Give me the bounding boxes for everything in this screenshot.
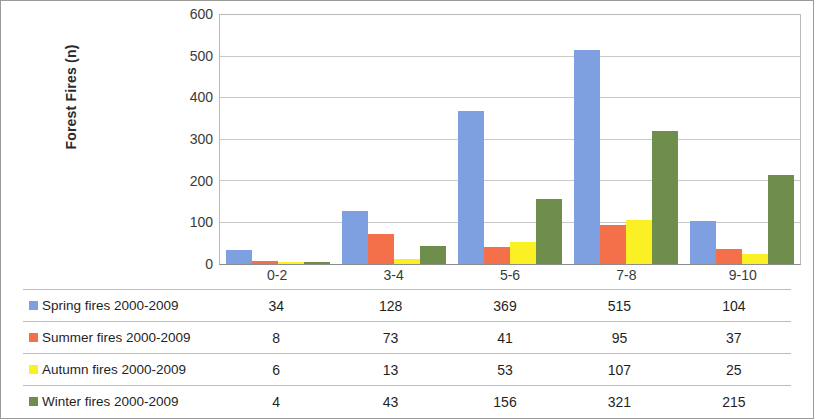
y-axis-tick-labels: 6005004003002001000 bbox=[151, 7, 213, 269]
y-tick-label: 300 bbox=[151, 131, 213, 147]
table-cell-value: 128 bbox=[333, 298, 447, 314]
table-cell-value: 156 bbox=[448, 394, 562, 410]
bar bbox=[626, 220, 652, 264]
legend-cell: Winter fires 2000-2009 bbox=[23, 394, 219, 409]
y-tick-label: 200 bbox=[151, 173, 213, 189]
table-cell-value: 25 bbox=[677, 362, 791, 378]
bar-group bbox=[220, 15, 336, 264]
chart-page: Forest Fires (n) 6005004003002001000 0-2… bbox=[0, 0, 814, 419]
legend-swatch-icon bbox=[29, 301, 38, 310]
y-axis-title: Forest Fires (n) bbox=[63, 0, 79, 207]
bar bbox=[652, 131, 678, 264]
bar bbox=[304, 262, 330, 264]
legend-label: Autumn fires 2000-2009 bbox=[42, 362, 186, 377]
table-cell-value: 53 bbox=[448, 362, 562, 378]
table-row: Spring fires 2000-200934128369515104 bbox=[23, 290, 791, 322]
bar bbox=[368, 234, 394, 264]
table-row: Summer fires 2000-2009873419537 bbox=[23, 322, 791, 354]
legend-cell: Summer fires 2000-2009 bbox=[23, 330, 219, 345]
bar-group bbox=[684, 15, 800, 264]
y-tick-label: 500 bbox=[151, 48, 213, 64]
x-tick-label: 5-6 bbox=[452, 267, 568, 283]
bar bbox=[278, 262, 304, 264]
bar bbox=[768, 175, 794, 264]
x-tick-label: 3-4 bbox=[335, 267, 451, 283]
x-tick-label: 0-2 bbox=[219, 267, 335, 283]
bar-group bbox=[336, 15, 452, 264]
bar bbox=[574, 50, 600, 264]
x-tick-label: 9-10 bbox=[685, 267, 801, 283]
bar bbox=[742, 254, 768, 264]
y-tick-label: 100 bbox=[151, 214, 213, 230]
table-cell-value: 41 bbox=[448, 330, 562, 346]
table-cell-value: 8 bbox=[219, 330, 333, 346]
table-cell-value: 73 bbox=[333, 330, 447, 346]
bar bbox=[690, 221, 716, 264]
table-cell-value: 34 bbox=[219, 298, 333, 314]
legend-swatch-icon bbox=[29, 333, 38, 342]
table-cell-value: 215 bbox=[677, 394, 791, 410]
y-tick-label: 0 bbox=[151, 256, 213, 272]
legend-cell: Spring fires 2000-2009 bbox=[23, 298, 219, 313]
table-cell-value: 4 bbox=[219, 394, 333, 410]
bar bbox=[226, 250, 252, 264]
x-tick-label: 7-8 bbox=[568, 267, 684, 283]
table-row: Winter fires 2000-2009443156321215 bbox=[23, 386, 791, 417]
plot-area bbox=[219, 14, 801, 265]
table-cell-value: 13 bbox=[333, 362, 447, 378]
table-cell-value: 95 bbox=[562, 330, 676, 346]
legend-swatch-icon bbox=[29, 397, 38, 406]
legend-label: Summer fires 2000-2009 bbox=[42, 330, 191, 345]
bar-chart: Forest Fires (n) 6005004003002001000 0-2… bbox=[1, 1, 813, 286]
legend-label: Spring fires 2000-2009 bbox=[42, 298, 179, 313]
legend-label: Winter fires 2000-2009 bbox=[42, 394, 179, 409]
bar bbox=[600, 225, 626, 264]
bar bbox=[394, 259, 420, 264]
legend-cell: Autumn fires 2000-2009 bbox=[23, 362, 219, 377]
bar bbox=[510, 242, 536, 264]
table-cell-value: 107 bbox=[562, 362, 676, 378]
table-cell-value: 321 bbox=[562, 394, 676, 410]
table-cell-value: 515 bbox=[562, 298, 676, 314]
data-table: Spring fires 2000-200934128369515104Summ… bbox=[23, 289, 791, 417]
table-cell-value: 104 bbox=[677, 298, 791, 314]
table-cell-value: 37 bbox=[677, 330, 791, 346]
table-cell-value: 43 bbox=[333, 394, 447, 410]
bar-groups bbox=[220, 15, 800, 264]
bar bbox=[458, 111, 484, 264]
legend-swatch-icon bbox=[29, 365, 38, 374]
y-tick-label: 600 bbox=[151, 6, 213, 22]
bar bbox=[536, 199, 562, 264]
bar-group bbox=[452, 15, 568, 264]
y-tick-label: 400 bbox=[151, 89, 213, 105]
bar bbox=[342, 211, 368, 264]
table-cell-value: 6 bbox=[219, 362, 333, 378]
table-row: Autumn fires 2000-20096135310725 bbox=[23, 354, 791, 386]
bar bbox=[716, 249, 742, 264]
x-axis-tick-labels: 0-23-45-67-89-10 bbox=[219, 267, 801, 283]
bar bbox=[252, 261, 278, 264]
bar-group bbox=[568, 15, 684, 264]
table-cell-value: 369 bbox=[448, 298, 562, 314]
bar bbox=[420, 246, 446, 264]
bar bbox=[484, 247, 510, 264]
